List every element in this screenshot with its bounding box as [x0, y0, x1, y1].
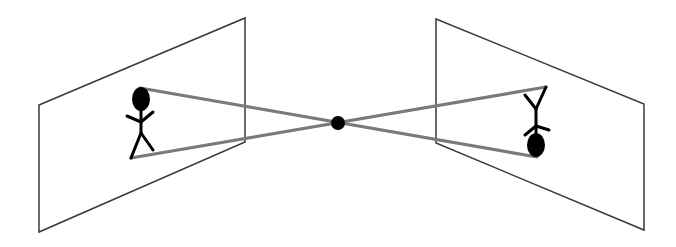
upright-stick-figure [127, 87, 153, 158]
figure-arm-left [127, 116, 141, 122]
figure-arm-right [536, 126, 549, 130]
figure-leg-right [141, 133, 153, 150]
figure-head [132, 87, 150, 111]
image-plane [436, 19, 644, 230]
figure-arm-right [141, 112, 153, 122]
figure-head [527, 133, 545, 157]
figure-leg-left [131, 133, 141, 158]
figure-leg-left [525, 95, 536, 109]
pinhole-camera-diagram [0, 0, 676, 247]
inverted-stick-figure [525, 87, 549, 157]
pinhole-point [331, 116, 345, 130]
figure-leg-right [536, 87, 546, 109]
